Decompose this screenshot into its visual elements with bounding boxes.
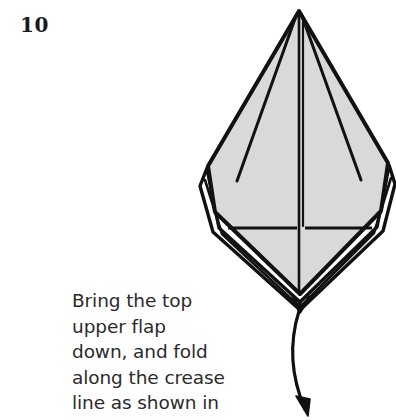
fold-arrow-line xyxy=(293,311,305,409)
fold-arrow-head xyxy=(296,396,310,416)
instruction-text: Bring the top upper flap down, and fold … xyxy=(72,288,282,416)
origami-instruction-page: 10 Bring the top upper flap down, and fo… xyxy=(0,0,396,420)
